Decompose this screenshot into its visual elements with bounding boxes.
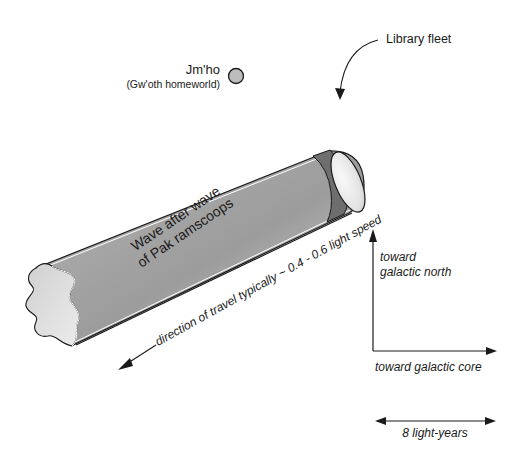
north-label-line2: galactic north: [380, 265, 452, 279]
diagram-canvas: Jm'ho (Gw'oth homeworld) Library fleet W…: [0, 0, 522, 461]
galactic-axes: [369, 229, 497, 355]
planet-jmho: [229, 69, 244, 84]
planet-subtitle: (Gw'oth homeworld): [126, 78, 220, 90]
wavy-rear-end: [26, 264, 79, 346]
arrow-right-icon: [485, 417, 496, 425]
arrow-left-icon: [375, 417, 386, 425]
library-fleet-pointer: [335, 40, 378, 100]
scale-bar: [375, 417, 496, 425]
planet-name: Jm'ho: [186, 62, 220, 77]
core-label: toward galactic core: [375, 360, 482, 374]
arrow-right-icon: [486, 347, 497, 355]
direction-arrow: [118, 345, 156, 370]
north-label-line1: toward: [380, 250, 416, 264]
scale-label: 8 light-years: [402, 426, 467, 440]
fleet-label: Library fleet: [386, 32, 452, 46]
